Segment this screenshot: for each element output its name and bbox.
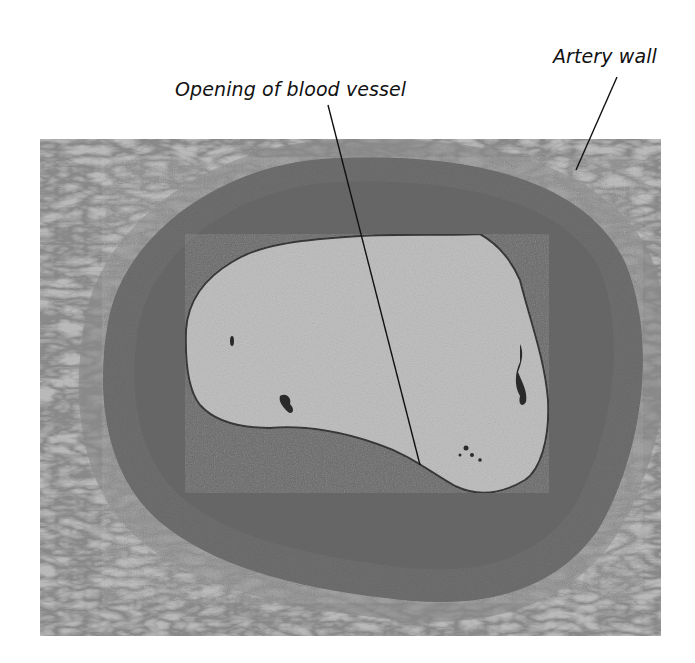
micrograph-image [40,139,668,636]
label-opening-of-blood-vessel: Opening of blood vessel [175,78,406,100]
label-artery-wall: Artery wall [553,45,657,67]
micrograph-figure: Opening of blood vessel Artery wall [0,0,695,663]
